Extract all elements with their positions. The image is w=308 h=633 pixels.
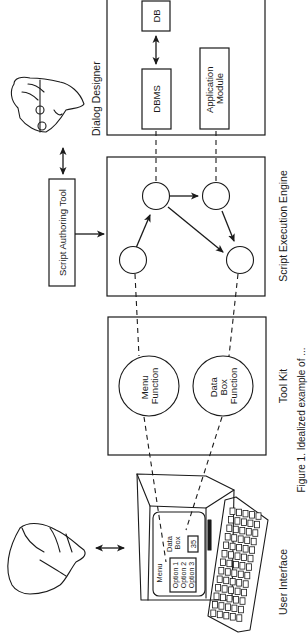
dialog-designer-label: Dialog Designer <box>90 61 102 136</box>
flow-arrow-3 <box>222 211 234 241</box>
script-authoring-tool-label: Script Authoring Tool <box>57 189 68 276</box>
dialog-designer-box <box>107 0 265 135</box>
node-to-menu-link <box>135 274 139 356</box>
script-execution-engine-label: Script Execution Engine <box>277 170 289 282</box>
designer-person-icon <box>11 77 84 132</box>
screen-menu-label: Menu <box>155 564 164 583</box>
dbms-label: DBMS <box>151 85 162 112</box>
keyboard-icon <box>208 497 268 632</box>
screen-option-3: Option 3 <box>188 562 196 589</box>
menu-to-screen-link <box>144 417 166 562</box>
screen-data-box-value: 35 <box>189 540 198 548</box>
tool-kit-section: Tool Kit Menu Function Data Box Function <box>108 317 289 562</box>
script-node-3 <box>203 183 230 210</box>
screen-option-1: Option 1 <box>172 562 180 589</box>
user-interface-section: User Interface Menu Data Box 35 Option 1… <box>8 474 289 632</box>
application-module-label: Application Module <box>204 64 225 113</box>
figure-caption: Figure 1. Idealized example of ... <box>296 347 307 492</box>
flow-arrow-1 <box>136 215 150 248</box>
node-to-databox-link <box>229 274 238 356</box>
script-node-2 <box>143 183 170 210</box>
screen-data-box-label: Data Box <box>165 534 182 552</box>
menu-function-label: Menu Function <box>139 368 160 404</box>
flow-arrow-4 <box>168 207 223 252</box>
script-execution-engine-section: Script Execution Engine <box>107 131 289 356</box>
screen-option-2: Option 2 <box>180 562 188 589</box>
end-user-person-icon <box>8 524 85 594</box>
script-node-4 <box>227 247 254 274</box>
dialog-designer-section: Dialog Designer DB DBMS Application Modu… <box>90 0 265 136</box>
script-execution-engine-box <box>107 157 265 296</box>
script-node-1 <box>120 247 147 274</box>
databox-to-screen-link <box>186 417 222 530</box>
user-interface-label: User Interface <box>277 549 289 615</box>
architecture-diagram: Dialog Designer DB DBMS Application Modu… <box>0 0 308 633</box>
db-label: DB <box>151 9 162 22</box>
tool-kit-label: Tool Kit <box>277 369 289 404</box>
